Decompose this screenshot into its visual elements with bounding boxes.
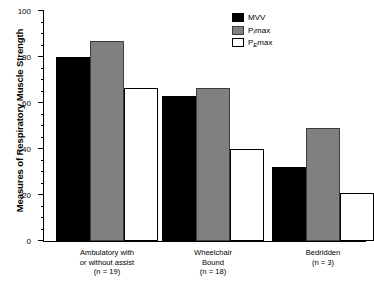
y-tick-minor (41, 68, 45, 69)
legend-label: MVV (248, 13, 265, 22)
legend-label-subscript: E (253, 42, 257, 48)
y-tick-major: 40 (38, 148, 44, 149)
legend-swatch-pimax (232, 26, 244, 35)
category-label-line: (n = 19) (56, 267, 158, 277)
legend-item[interactable]: MVV (232, 12, 272, 23)
legend-label-base: MVV (248, 13, 265, 22)
category-label: Bedridden(n = 3) (272, 248, 374, 267)
y-tick-minor (41, 183, 45, 184)
y-tick-minor (41, 171, 45, 172)
legend-swatch-mvv (232, 13, 244, 22)
plot-area: 100806040200 Ambulatory withor without a… (43, 11, 366, 242)
chart-legend: MVVPImaxPEmax (232, 12, 272, 48)
legend-label-subscript: I (253, 29, 255, 35)
y-tick-minor (41, 22, 45, 23)
category-label: Ambulatory withor without assist(n = 19) (56, 248, 158, 277)
y-tick-minor (41, 137, 45, 138)
bar-mvv[interactable] (56, 57, 90, 241)
y-tick-minor (41, 33, 45, 34)
y-axis-title: Measures of Respiratory Muscle Strength (14, 6, 25, 236)
category-label-line: Bound (162, 258, 264, 268)
category-label-line: Bedridden (272, 248, 374, 258)
category-label-line: (n = 18) (162, 267, 264, 277)
legend-item[interactable]: PImax (232, 25, 272, 36)
y-tick-label: 100 (18, 7, 31, 16)
bar-pimax[interactable] (306, 128, 340, 241)
y-tick-major: 20 (38, 194, 44, 195)
legend-item[interactable]: PEmax (232, 37, 272, 48)
bar-pemax[interactable] (340, 193, 374, 241)
y-tick-label: 60 (22, 99, 31, 108)
bar-pimax[interactable] (196, 88, 230, 241)
y-tick-minor (41, 114, 45, 115)
y-tick-label: 40 (22, 145, 31, 154)
y-tick-minor (41, 229, 45, 230)
category-label-line: or without assist (56, 258, 158, 268)
bar-mvv[interactable] (162, 96, 196, 241)
y-tick-major: 100 (38, 10, 44, 11)
y-tick-minor (41, 91, 45, 92)
y-tick-label: 20 (22, 191, 31, 200)
y-tick-major: 0 (38, 240, 44, 241)
bar-mvv[interactable] (272, 167, 306, 241)
y-tick-label: 80 (22, 53, 31, 62)
legend-label-suffix: max (257, 38, 272, 47)
legend-swatch-pemax (232, 38, 244, 47)
category-label-line: Ambulatory with (56, 248, 158, 258)
legend-label: PEmax (248, 38, 272, 47)
category-label: WheelchairBound(n = 18) (162, 248, 264, 277)
y-tick-minor (41, 79, 45, 80)
y-tick-minor (41, 125, 45, 126)
y-tick-minor (41, 160, 45, 161)
legend-label-suffix: max (255, 26, 270, 35)
y-tick-minor (41, 217, 45, 218)
y-tick-major: 60 (38, 102, 44, 103)
y-tick-major: 80 (38, 56, 44, 57)
bar-pemax[interactable] (124, 88, 158, 241)
y-tick-label: 0 (27, 237, 31, 246)
y-tick-minor (41, 206, 45, 207)
y-tick-minor (41, 45, 45, 46)
category-label-line: (n = 3) (272, 258, 374, 268)
bar-pemax[interactable] (230, 149, 264, 241)
bar-pimax[interactable] (90, 41, 124, 241)
category-label-line: Wheelchair (162, 248, 264, 258)
legend-label: PImax (248, 26, 270, 35)
